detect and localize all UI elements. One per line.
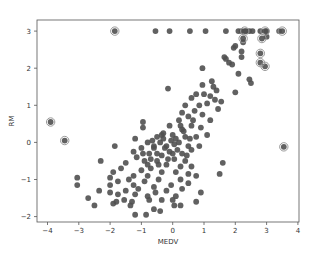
data-point [207,117,213,123]
data-point [170,151,176,157]
scatter-chart: −4−3−2−101234 −2−10123 MEDV RM [0,0,313,262]
data-point [107,190,113,196]
data-point [236,71,242,77]
data-point [110,169,116,175]
data-point [85,195,91,201]
data-point [139,145,145,151]
data-point [115,191,121,197]
data-point [168,138,174,144]
data-point [140,125,146,131]
data-point [168,182,174,188]
data-point [145,173,151,179]
data-point [198,190,204,196]
data-point [174,147,180,153]
data-point [159,169,165,175]
x-tick-label: −1 [136,227,146,235]
data-point [74,175,80,181]
data-point [156,162,162,168]
data-point [178,164,184,170]
y-axis-ticks: −2−10123 [21,28,37,222]
data-point [250,28,256,34]
data-point [242,28,248,34]
data-point [193,199,199,205]
y-tick-label: 2 [27,65,31,73]
data-point [96,188,102,194]
x-tick-label: −4 [42,227,53,235]
x-tick-label: 2 [233,227,237,235]
data-point [248,80,254,86]
data-point [142,178,148,184]
x-tick-label: −3 [74,227,84,235]
y-tick-label: −1 [21,176,31,184]
data-point [146,197,152,203]
data-point [132,212,138,218]
y-tick-label: −2 [21,213,31,221]
data-point [196,102,202,108]
data-point [162,145,168,151]
data-point [192,108,198,114]
data-point [173,169,179,175]
data-point [135,186,141,192]
data-point [151,184,157,190]
data-point [189,164,195,170]
data-point [139,167,145,173]
data-point [178,123,184,129]
data-point [178,203,184,209]
data-point [239,49,245,55]
data-point [182,158,188,164]
data-point [153,28,159,34]
data-point [196,143,202,149]
data-point [193,134,199,140]
data-point [110,201,116,207]
data-point [190,117,196,123]
data-point [207,93,213,99]
x-tick-label: 4 [296,227,301,235]
data-point [279,28,285,34]
data-point [203,28,209,34]
data-point [185,180,191,186]
data-point [107,175,113,181]
data-point [214,88,220,94]
x-tick-label: 1 [202,227,206,235]
data-point [259,36,265,42]
y-axis-label: RM [8,116,16,127]
data-point [184,152,190,158]
data-point [257,50,263,56]
data-point [232,89,238,95]
data-point [204,132,210,138]
data-point [92,203,98,209]
data-point [171,156,177,162]
data-point [167,123,173,129]
x-axis-label: MEDV [158,238,179,246]
data-point [151,143,157,149]
data-point [189,95,195,101]
data-point [215,106,221,112]
data-point [220,160,226,166]
data-point [128,203,134,209]
data-point [200,82,206,88]
data-point [98,158,104,164]
data-point [164,188,170,194]
data-point [262,28,268,34]
data-point [229,62,235,68]
data-point [240,36,246,42]
data-point [123,188,129,194]
data-point [134,154,140,160]
data-point [148,156,154,162]
scatter-points [48,28,287,217]
data-point [146,151,152,157]
data-point [193,91,199,97]
data-point [204,101,210,107]
data-point [178,177,184,183]
data-point [212,97,218,103]
data-point [189,123,195,129]
data-point [149,138,155,144]
data-point [131,182,137,188]
data-point [189,147,195,153]
data-point [201,91,207,97]
data-point [156,177,162,183]
data-point [145,162,151,168]
data-point [48,119,54,125]
data-point [218,99,224,105]
x-tick-label: −2 [105,227,115,235]
